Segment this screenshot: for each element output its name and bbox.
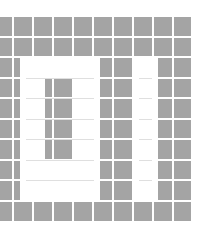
grid-tile — [54, 38, 72, 56]
faint-gridline — [139, 119, 152, 120]
grid-tile — [54, 17, 72, 36]
grid-tile — [0, 99, 12, 118]
glyph-hole-tile — [45, 79, 52, 97]
grid-tile — [0, 161, 12, 179]
grid-tile — [154, 38, 172, 56]
faint-gridline — [139, 78, 152, 79]
grid-tile — [34, 202, 52, 221]
grid-tile — [74, 202, 92, 221]
grid-tile — [0, 58, 12, 77]
glyph-hole-tile — [54, 140, 72, 159]
grid-tile — [174, 58, 191, 77]
grid-tile — [14, 38, 32, 56]
grid-tile — [0, 140, 12, 159]
grid-tile — [154, 17, 172, 36]
grid-tile — [114, 181, 132, 200]
grid-tile — [114, 58, 132, 77]
grid-tile — [174, 38, 191, 56]
glyph-hole-tile — [54, 99, 72, 118]
tile-grid-canvas — [0, 0, 207, 229]
grid-tile — [174, 99, 191, 118]
grid-tile — [0, 17, 12, 36]
grid-tile — [34, 38, 52, 56]
grid-tile — [174, 17, 191, 36]
grid-tile — [94, 38, 112, 56]
grid-tile — [114, 140, 132, 159]
grid-tile — [74, 17, 92, 36]
grid-tile — [94, 17, 112, 36]
grid-tile — [174, 181, 191, 200]
grid-tile — [0, 38, 12, 56]
grid-tile — [0, 181, 12, 200]
faint-gridline — [139, 180, 152, 181]
grid-tile — [174, 202, 191, 221]
grid-tile — [134, 202, 152, 221]
grid-tile — [134, 17, 152, 36]
faint-gridline — [139, 160, 152, 161]
glyph-hole-tile — [54, 120, 72, 138]
grid-tile — [94, 202, 112, 221]
grid-tile — [14, 202, 32, 221]
faint-gridline — [26, 180, 94, 181]
grid-tile — [174, 161, 191, 179]
grid-tile — [174, 79, 191, 97]
grid-tile — [114, 17, 132, 36]
grid-tile — [114, 99, 132, 118]
grid-tile — [174, 120, 191, 138]
grid-tile — [114, 79, 132, 97]
grid-tile — [114, 202, 132, 221]
grid-tile — [34, 17, 52, 36]
glyph-hole-tile — [45, 99, 52, 118]
grid-tile — [54, 202, 72, 221]
grid-tile — [74, 38, 92, 56]
glyph-one — [133, 58, 158, 200]
grid-tile — [14, 17, 32, 36]
grid-tile — [174, 140, 191, 159]
grid-tile — [114, 161, 132, 179]
grid-tile — [134, 38, 152, 56]
glyph-hole-tile — [54, 79, 72, 97]
grid-tile — [154, 202, 172, 221]
grid-tile — [0, 79, 12, 97]
grid-tile — [114, 120, 132, 138]
glyph-hole-tile — [45, 120, 52, 138]
faint-gridline — [26, 160, 94, 161]
faint-gridline — [139, 98, 152, 99]
grid-tile — [114, 38, 132, 56]
faint-gridline — [139, 139, 152, 140]
glyph-hole-tile — [45, 140, 52, 159]
grid-tile — [0, 202, 12, 221]
grid-tile — [0, 120, 12, 138]
